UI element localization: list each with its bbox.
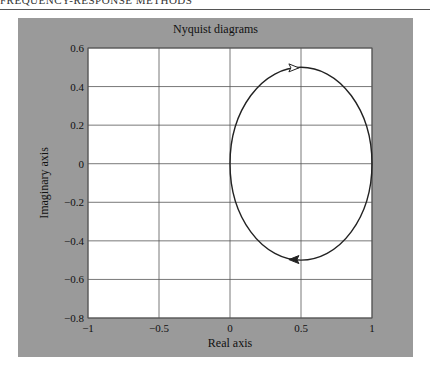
x-tick-label: 0	[227, 322, 233, 334]
y-tick-label: 0.6	[70, 42, 84, 54]
y-axis-label: Imaginary axis	[37, 147, 51, 219]
nyquist-chart: −1−0.500.51 0.60.40.20−0.2−0.4−0.6−0.8 R…	[0, 0, 430, 373]
y-tick-label: −0.2	[64, 196, 84, 208]
y-tick-label: −0.6	[64, 273, 84, 285]
y-tick-label: −0.4	[64, 235, 84, 247]
y-tick-label: −0.8	[64, 312, 84, 324]
x-tick-label: −0.5	[149, 322, 169, 334]
x-tick-label: 1	[369, 322, 375, 334]
x-axis-label: Real axis	[208, 336, 253, 350]
y-tick-label: 0.2	[70, 119, 84, 131]
y-tick-label: 0.4	[70, 81, 84, 93]
y-tick-labels: 0.60.40.20−0.2−0.4−0.6−0.8	[64, 42, 84, 324]
y-tick-label: 0	[79, 158, 85, 170]
x-tick-label: 0.5	[294, 322, 308, 334]
x-tick-labels: −1−0.500.51	[82, 322, 375, 334]
